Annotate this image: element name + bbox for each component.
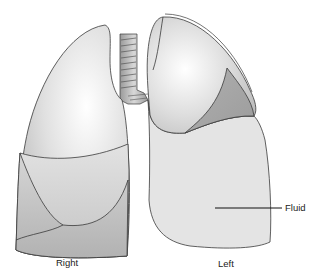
lungs-diagram: Right Left Fluid	[0, 0, 320, 278]
left-lung-label: Left	[218, 258, 234, 269]
right-lung-label: Right	[56, 257, 78, 268]
right-lung	[16, 25, 129, 258]
left-lung	[147, 14, 271, 248]
trachea	[120, 34, 148, 104]
lungs-illustration	[0, 0, 320, 278]
fluid-label: Fluid	[285, 202, 306, 213]
